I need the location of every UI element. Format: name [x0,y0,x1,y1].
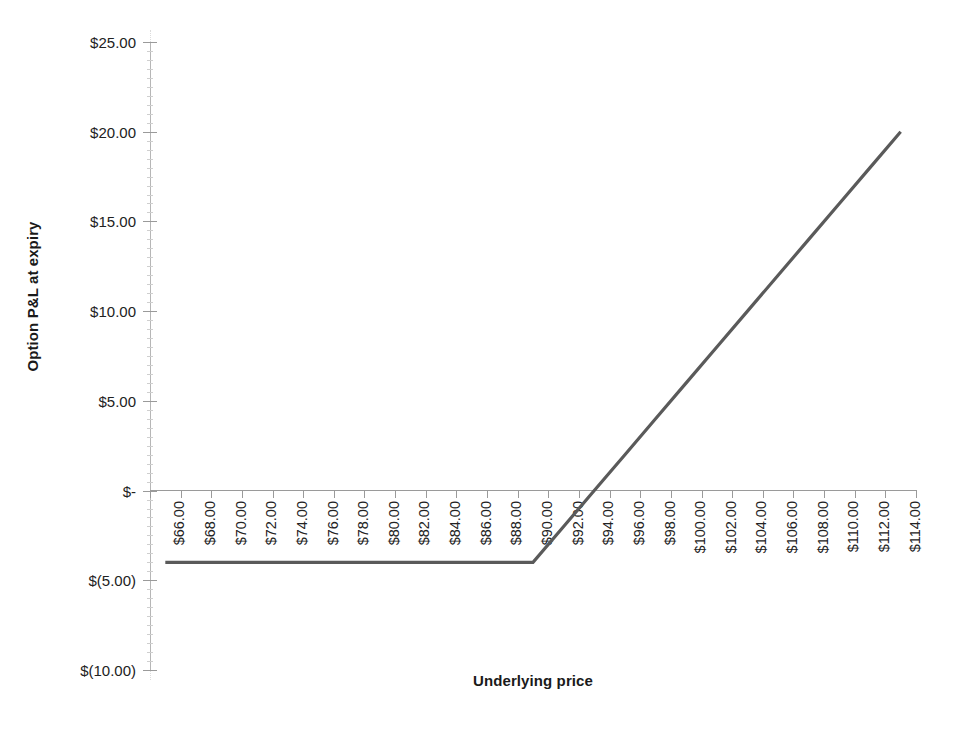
payoff-line [165,132,900,563]
payoff-series-line [0,0,957,735]
option-payoff-chart: Option P&L at expiry Underlying price $2… [0,0,957,735]
